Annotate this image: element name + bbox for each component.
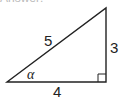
hypotenuse-label: 5 bbox=[44, 32, 52, 49]
vertical-side-label: 3 bbox=[110, 39, 118, 56]
triangle-shape bbox=[7, 8, 106, 82]
angle-alpha-label: α bbox=[27, 67, 35, 82]
base-label: 4 bbox=[53, 83, 61, 100]
right-angle-marker bbox=[98, 74, 106, 82]
triangle-diagram: 5 3 4 α bbox=[0, 0, 122, 100]
